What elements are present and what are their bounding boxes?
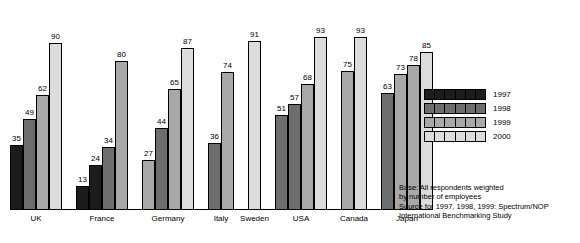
bar-value-label: 93 — [316, 26, 325, 35]
bar-rect: 93 — [314, 37, 327, 210]
legend-label: 1998 — [493, 103, 511, 114]
bar: 44 — [155, 24, 168, 210]
bar-rect: 93 — [354, 37, 367, 210]
bar-group: 13243480 — [76, 24, 128, 210]
bar-value-label: 44 — [157, 117, 166, 126]
legend-swatch-segment — [456, 118, 466, 127]
bar-rect: 68 — [301, 84, 314, 210]
legend-swatch-segment — [445, 118, 455, 127]
bar: 27 — [142, 24, 155, 210]
footnote-line-1: Base: All respondents weighted — [399, 183, 579, 192]
legend-swatch-segment — [466, 132, 476, 141]
legend-swatch — [424, 117, 486, 128]
legend-item-1999: 1999 — [424, 117, 570, 128]
category-label-canada: Canada — [340, 213, 368, 224]
bar-group: 7593 — [341, 24, 367, 210]
legend-label: 1997 — [493, 89, 511, 100]
bar: 13 — [76, 24, 89, 210]
legend-swatch-segment — [456, 90, 466, 99]
legend-swatch-segment — [476, 104, 485, 113]
bar: 91 — [248, 24, 261, 210]
bar: 35 — [10, 24, 23, 210]
legend-swatch-segment — [445, 132, 455, 141]
bar-rect: 74 — [221, 72, 234, 210]
legend-swatch-segment — [435, 90, 445, 99]
bar: 24 — [89, 24, 102, 210]
bar-rect: 35 — [10, 145, 23, 210]
bar-value-label: 63 — [383, 82, 392, 91]
bar-value-label: 74 — [223, 61, 232, 70]
bar: 80 — [115, 24, 128, 210]
bar-rect: 44 — [155, 128, 168, 210]
bar-value-label: 49 — [25, 108, 34, 117]
bar-rect: 80 — [115, 61, 128, 210]
bar-value-label: 62 — [38, 84, 47, 93]
legend-swatch-segment — [445, 104, 455, 113]
bar-rect: 34 — [102, 147, 115, 210]
bar-rect: 75 — [341, 71, 354, 211]
bar: 93 — [314, 24, 327, 210]
bar-rect: 49 — [23, 119, 36, 210]
legend-swatch-segment — [425, 118, 435, 127]
legend-item-2000: 2000 — [424, 131, 570, 142]
bar: 34 — [102, 24, 115, 210]
bar-rect: 90 — [49, 43, 62, 210]
legend-item-1998: 1998 — [424, 103, 570, 114]
category-label-france: France — [90, 213, 115, 224]
legend-swatch-segment — [445, 90, 455, 99]
bar-value-label: 78 — [409, 54, 418, 63]
category-label-sweden: Sweden — [240, 213, 269, 224]
bar-rect: 62 — [36, 95, 49, 210]
category-label-uk: UK — [30, 213, 41, 224]
bar-rect: 36 — [208, 143, 221, 210]
bar: 62 — [36, 24, 49, 210]
legend-swatch-segment — [476, 132, 485, 141]
legend-swatch — [424, 131, 486, 142]
bar-value-label: 91 — [250, 30, 259, 39]
bar-value-label: 73 — [396, 63, 405, 72]
bar-value-label: 85 — [422, 41, 431, 50]
legend-swatch — [424, 89, 486, 100]
bar-group: 35496290 — [10, 24, 62, 210]
legend-item-1997: 1997 — [424, 89, 570, 100]
bar-rect: 27 — [142, 160, 155, 210]
legend-swatch-segment — [476, 90, 485, 99]
bar: 74 — [221, 24, 234, 210]
bar-value-label: 34 — [104, 136, 113, 145]
bar-rect: 65 — [168, 89, 181, 210]
bar-rect: 24 — [89, 165, 102, 210]
bar: 49 — [23, 24, 36, 210]
baseline-axis — [10, 209, 433, 210]
legend-swatch-segment — [456, 132, 466, 141]
bar-value-label: 36 — [210, 132, 219, 141]
bar: 51 — [275, 24, 288, 210]
bar-chart: 3549629013243480274465873674915157689375… — [0, 0, 400, 243]
legend-swatch-segment — [456, 104, 466, 113]
bar: 90 — [49, 24, 62, 210]
legend-swatch — [424, 103, 486, 114]
category-labels: UKFranceGermanyItalySwedenUSACanadaJapan — [10, 213, 433, 225]
bar-value-label: 13 — [78, 175, 87, 184]
legend-swatch-segment — [466, 104, 476, 113]
legend-swatch-segment — [425, 104, 435, 113]
bar: 57 — [288, 24, 301, 210]
bar-group: 27446587 — [142, 24, 194, 210]
bar: 75 — [341, 24, 354, 210]
legend-swatch-segment — [466, 90, 476, 99]
legend-swatch-segment — [435, 132, 445, 141]
bar-value-label: 24 — [91, 154, 100, 163]
bar-value-label: 87 — [183, 37, 192, 46]
legend-swatch-segment — [466, 118, 476, 127]
footnote-line-3: Source for 1997, 1998, 1999: Spectrum/NO… — [399, 202, 579, 211]
bar-group: 51576893 — [275, 24, 327, 210]
legend-swatch-segment — [435, 118, 445, 127]
bar-value-label: 65 — [170, 78, 179, 87]
bar-group: 3674 — [208, 24, 234, 210]
bar-value-label: 27 — [144, 149, 153, 158]
bar-rect: 57 — [288, 104, 301, 210]
bar-rect: 13 — [76, 186, 89, 210]
legend-label: 2000 — [493, 131, 511, 142]
bar-value-label: 68 — [303, 73, 312, 82]
category-label-italy: Italy — [214, 213, 229, 224]
bar-value-label: 35 — [12, 134, 21, 143]
